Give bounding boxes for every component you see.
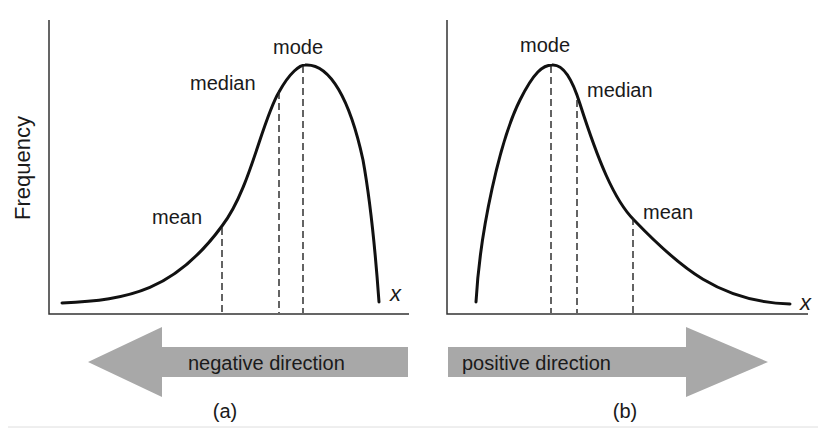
- negative-direction-label: negative direction: [188, 352, 345, 374]
- positive-direction-arrow: positive direction: [448, 327, 768, 397]
- panel-a-curve: [62, 65, 379, 303]
- panel-a-median-label: median: [190, 72, 256, 94]
- panel-a-caption: (a): [213, 400, 237, 422]
- panel-b-mean-label: mean: [643, 201, 693, 223]
- panel-b-mode-label: mode: [520, 34, 570, 56]
- panel-a: mode median mean x: [49, 20, 409, 314]
- negative-direction-arrow: negative direction: [88, 327, 408, 397]
- positive-direction-label: positive direction: [462, 352, 611, 374]
- panel-b-x-label: x: [799, 290, 812, 315]
- panel-b: mode median mean x: [447, 20, 812, 315]
- panel-a-axes: [49, 20, 409, 314]
- panel-a-mean-label: mean: [152, 206, 202, 228]
- panel-a-x-label: x: [389, 281, 402, 306]
- panel-a-mode-label: mode: [273, 36, 323, 58]
- panel-b-median-label: median: [587, 79, 653, 101]
- skewness-figure: Frequency mode median mean x mode median…: [0, 0, 826, 442]
- panel-b-axes: [447, 20, 808, 314]
- panel-b-caption: (b): [613, 400, 637, 422]
- y-axis-label: Frequency: [10, 116, 35, 220]
